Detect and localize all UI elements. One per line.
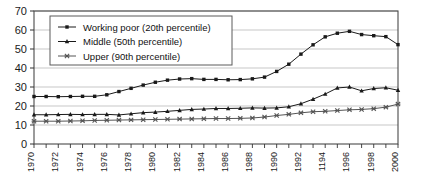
series-1-point-1999 <box>384 35 387 38</box>
series-1-point-1998 <box>372 34 375 37</box>
y-tick-label-20: 20 <box>15 100 27 112</box>
legend-marker-1 <box>65 25 68 28</box>
series-1-point-1970 <box>32 95 35 98</box>
x-tick-label-1986: 1986 <box>220 152 230 172</box>
series-1-point-1978 <box>129 87 132 90</box>
x-tick-label-1988: 1988 <box>244 152 254 172</box>
line-chart: 0102030405060701970197219741976197819801… <box>0 0 421 187</box>
series-1-point-1996 <box>348 30 351 33</box>
series-1-point-1994 <box>324 35 327 38</box>
series-1-point-1976 <box>105 93 108 96</box>
y-tick-label-40: 40 <box>15 62 27 74</box>
y-axis: 010203040506070 <box>15 5 34 150</box>
legend: Working poor (20th percentile)Middle (50… <box>50 16 232 65</box>
series-1-point-1979 <box>142 83 145 86</box>
series-1-point-1972 <box>57 95 60 98</box>
series-1-point-2000 <box>396 43 399 46</box>
series-1-point-1985 <box>214 78 217 81</box>
y-tick-label-50: 50 <box>15 43 27 55</box>
series-1-point-1990 <box>275 70 278 73</box>
x-tick-label-1980: 1980 <box>147 152 157 172</box>
x-tick-label-1982: 1982 <box>172 152 182 172</box>
x-tick-label-1990: 1990 <box>269 152 279 172</box>
x-tick-label-1998: 1998 <box>366 152 376 172</box>
x-tick-label-1976: 1976 <box>99 152 109 172</box>
series-1-point-1983 <box>190 77 193 80</box>
series-1-point-1993 <box>311 43 314 46</box>
series-1-point-1971 <box>44 95 47 98</box>
series-1-point-1997 <box>360 33 363 36</box>
x-tick-label-1972: 1972 <box>50 152 60 172</box>
legend-label-3: Upper (90th percentile) <box>83 51 180 62</box>
x-tick-label-1978: 1978 <box>123 152 133 172</box>
series-1-point-1995 <box>336 32 339 35</box>
x-tick-label-1992: 1992 <box>293 152 303 172</box>
y-tick-label-0: 0 <box>21 138 27 150</box>
y-tick-label-30: 30 <box>15 81 27 93</box>
series-1-point-1984 <box>202 78 205 81</box>
y-tick-label-70: 70 <box>15 5 27 17</box>
chart-container: 0102030405060701970197219741976197819801… <box>0 0 421 187</box>
series-1-point-1988 <box>251 77 254 80</box>
y-tick-label-10: 10 <box>15 119 27 131</box>
series-1-point-1974 <box>81 95 84 98</box>
x-tick-label-1970: 1970 <box>26 152 36 172</box>
series-1-point-1989 <box>263 75 266 78</box>
series-1-point-1973 <box>69 95 72 98</box>
x-tick-label-1194: 1194 <box>317 152 327 171</box>
series-1-point-1987 <box>239 78 242 81</box>
series-1-point-1982 <box>178 77 181 80</box>
series-1-point-1977 <box>117 90 120 93</box>
x-tick-label-2000: 2000 <box>390 152 400 172</box>
x-tick-label-1984: 1984 <box>196 152 206 172</box>
series-1-point-1986 <box>226 78 229 81</box>
series-1-point-1981 <box>166 78 169 81</box>
series-1-point-1991 <box>287 63 290 66</box>
series-1-point-1980 <box>154 81 157 84</box>
y-tick-label-60: 60 <box>15 24 27 36</box>
x-axis: 1970197219741976197819801982198419861988… <box>26 144 400 172</box>
series-1-point-1975 <box>93 95 96 98</box>
series-1-point-1992 <box>299 52 302 55</box>
x-tick-label-1996: 1996 <box>341 152 351 172</box>
x-tick-label-1974: 1974 <box>75 152 85 172</box>
legend-label-1: Working poor (20th percentile) <box>83 22 211 33</box>
legend-label-2: Middle (50th percentile) <box>83 36 182 47</box>
